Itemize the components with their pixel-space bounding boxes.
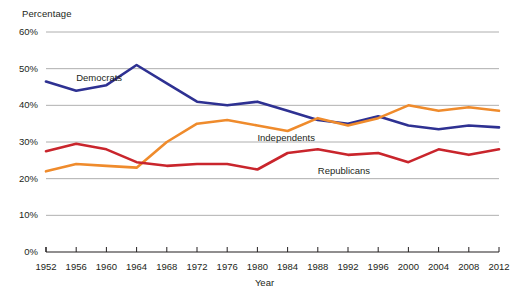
x-tick-label: 2012 — [479, 261, 519, 272]
series-label-republicans: Republicans — [318, 165, 370, 176]
series-label-independents: Independents — [257, 132, 315, 143]
y-tick-label: 30% — [4, 136, 38, 147]
series-label-democrats: Democrats — [76, 72, 122, 83]
chart-canvas — [0, 0, 529, 300]
y-tick-label: 50% — [4, 63, 38, 74]
x-axis-ticks — [46, 247, 499, 252]
y-tick-label: 20% — [4, 173, 38, 184]
y-tick-label: 0% — [4, 246, 38, 257]
y-tick-label: 40% — [4, 99, 38, 110]
chart-container: Percentage 0%10%20%30%40%50%60% 19521956… — [0, 0, 529, 300]
axis-lines — [46, 247, 499, 252]
y-tick-label: 10% — [4, 209, 38, 220]
gridlines — [46, 32, 499, 215]
y-tick-label: 60% — [4, 26, 38, 37]
x-axis-title: Year — [0, 277, 529, 288]
